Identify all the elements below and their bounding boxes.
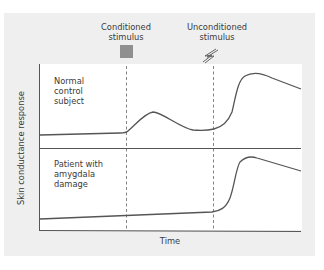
conditioned-stimulus-label-line2: stimulus — [86, 32, 166, 42]
normal-subject-label-line2: control — [54, 86, 124, 96]
y-axis-label: Skin conductance response — [16, 91, 26, 205]
normal-subject-label-line3: subject — [54, 96, 124, 106]
unconditioned-stimulus-label-line2: stimulus — [177, 32, 257, 42]
amygdala-patient-label-line2: amygdala — [54, 169, 124, 179]
unconditioned-stimulus-label: Unconditioned stimulus — [177, 22, 257, 42]
normal-subject-label: Normal control subject — [54, 76, 124, 106]
conditioned-stimulus-label: Conditioned stimulus — [86, 22, 166, 42]
conditioned-stimulus-label-line1: Conditioned — [86, 22, 166, 32]
conditioned-stimulus-icon — [120, 45, 133, 58]
lightning-bolt-icon — [203, 49, 218, 63]
amygdala-patient-label-line3: damage — [54, 179, 124, 189]
amygdala-patient-label: Patient with amygdala damage — [54, 159, 124, 189]
x-axis — [39, 231, 301, 232]
unconditioned-stimulus-label-line1: Unconditioned — [177, 22, 257, 32]
x-axis-label: Time — [150, 236, 190, 246]
normal-subject-label-line1: Normal — [54, 76, 124, 86]
amygdala-patient-label-line1: Patient with — [54, 159, 124, 169]
